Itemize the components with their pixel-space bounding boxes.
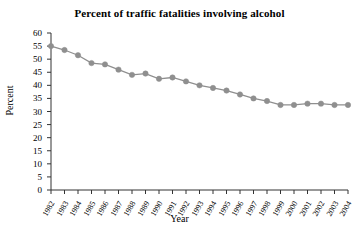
chart-container: Percent of traffic fatalities involving …	[0, 0, 359, 235]
data-point	[143, 71, 148, 76]
data-point	[89, 60, 94, 65]
y-tick-label: 15	[20, 147, 42, 156]
y-tick-label: 50	[20, 55, 42, 64]
data-point	[224, 88, 229, 93]
y-tick-label: 60	[20, 29, 42, 38]
y-tick-label: 25	[20, 121, 42, 130]
data-point	[251, 96, 256, 101]
y-tick-label: 45	[20, 68, 42, 77]
data-point	[102, 62, 107, 67]
data-point	[170, 75, 175, 80]
y-tick-label: 10	[20, 160, 42, 169]
data-point	[210, 85, 215, 90]
data-point	[332, 102, 337, 107]
y-tick-label: 0	[20, 186, 42, 195]
data-point	[345, 102, 350, 107]
y-tick-label: 55	[20, 42, 42, 51]
data-point	[116, 67, 121, 72]
y-tick-label: 35	[20, 94, 42, 103]
data-point	[129, 72, 134, 77]
data-point	[75, 53, 80, 58]
y-tick-label: 40	[20, 81, 42, 90]
y-tick-label: 20	[20, 134, 42, 143]
data-point	[318, 101, 323, 106]
data-point	[197, 83, 202, 88]
data-point	[278, 102, 283, 107]
data-line	[51, 46, 348, 105]
data-point	[183, 79, 188, 84]
data-point	[48, 43, 53, 48]
data-point	[156, 76, 161, 81]
data-point	[264, 98, 269, 103]
plot-area: 0510152025303540455055601982198319841985…	[0, 0, 359, 235]
data-point	[291, 102, 296, 107]
data-point	[237, 92, 242, 97]
data-point	[305, 101, 310, 106]
y-tick-label: 5	[20, 173, 42, 182]
data-point	[62, 47, 67, 52]
y-tick-label: 30	[20, 108, 42, 117]
